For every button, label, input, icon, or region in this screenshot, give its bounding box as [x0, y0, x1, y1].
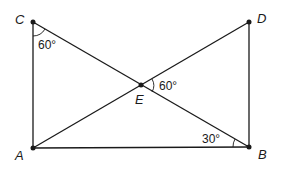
- point-B: [247, 145, 252, 150]
- point-D: [247, 20, 252, 25]
- point-A: [31, 146, 36, 151]
- label-A: A: [14, 148, 24, 163]
- label-E: E: [135, 92, 144, 107]
- point-E: [139, 83, 144, 88]
- geometry-diagram: C D A B E 60° 60° 30°: [0, 0, 282, 169]
- angle-label-E: 60°: [159, 79, 177, 93]
- angle-arc-B: [233, 139, 235, 147]
- angle-arc-E: [152, 79, 154, 92]
- segment-AB: [33, 147, 249, 148]
- angle-label-B: 30°: [202, 132, 220, 146]
- label-C: C: [15, 12, 25, 27]
- angle-arc-C: [33, 29, 45, 36]
- label-B: B: [258, 147, 267, 162]
- label-D: D: [257, 11, 266, 26]
- point-C: [31, 20, 36, 25]
- angle-label-C: 60°: [38, 38, 56, 52]
